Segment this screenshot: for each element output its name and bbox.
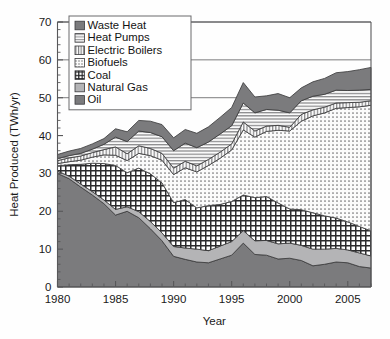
x-tick-labels: 198019851990199520002005 xyxy=(45,293,361,305)
x-tick-label: 1985 xyxy=(103,293,129,305)
legend-label-heat-pumps: Heat Pumps xyxy=(88,31,151,43)
x-tick-label: 2005 xyxy=(335,293,361,305)
y-axis-title: Heat Produced (TWh/yr) xyxy=(8,92,20,217)
legend-swatch-coal xyxy=(75,71,85,80)
y-tick-label: 50 xyxy=(39,92,52,104)
chart-figure: 010203040506070 198019851990199520002005… xyxy=(0,0,390,339)
y-tick-label: 10 xyxy=(39,243,52,255)
legend-swatch-waste-heat xyxy=(75,21,85,30)
legend-swatch-biofuels xyxy=(75,58,85,67)
x-tick-label: 1980 xyxy=(45,293,71,305)
legend-label-oil: Oil xyxy=(88,93,102,105)
legend-swatch-electric-boilers xyxy=(75,46,85,55)
legend-label-waste-heat: Waste Heat xyxy=(88,19,147,31)
y-tick-label: 20 xyxy=(39,205,52,217)
x-tick-label: 2000 xyxy=(277,293,303,305)
y-tick-label: 70 xyxy=(39,16,52,28)
y-tick-label: 40 xyxy=(39,130,52,142)
y-tick-label: 60 xyxy=(39,54,52,66)
legend-swatch-natural-gas xyxy=(75,83,85,92)
stacked-area-chart: 010203040506070 198019851990199520002005… xyxy=(0,0,390,339)
x-tick-label: 1995 xyxy=(219,293,245,305)
legend-swatch-heat-pumps xyxy=(75,34,85,43)
y-tick-labels: 010203040506070 xyxy=(39,16,52,293)
legend-swatch-oil xyxy=(75,96,85,105)
legend-label-natural-gas: Natural Gas xyxy=(88,81,149,93)
y-tick-label: 0 xyxy=(45,281,51,293)
chart-legend: Waste HeatHeat PumpsElectric BoilersBiof… xyxy=(69,16,191,110)
x-axis-title: Year xyxy=(203,315,226,327)
legend-label-biofuels: Biofuels xyxy=(88,56,129,68)
y-tick-label: 30 xyxy=(39,167,52,179)
x-tick-label: 1990 xyxy=(161,293,187,305)
legend-label-coal: Coal xyxy=(88,69,111,81)
legend-label-electric-boilers: Electric Boilers xyxy=(88,44,163,56)
